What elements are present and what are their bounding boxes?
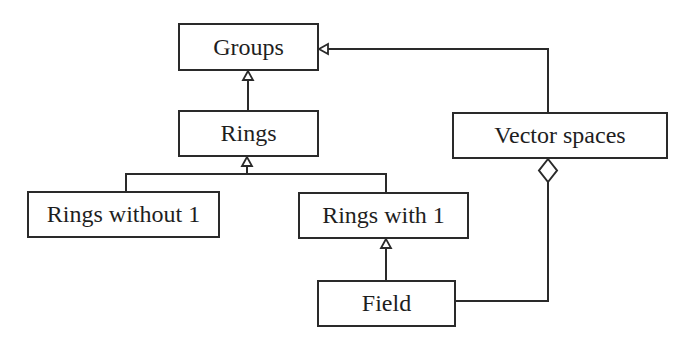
edge-vector-spaces-to-groups bbox=[328, 49, 548, 113]
node-label: Groups bbox=[213, 34, 284, 60]
node-label: Rings without 1 bbox=[47, 201, 200, 227]
inheritance-arrow-icon bbox=[319, 44, 328, 54]
node-label: Vector spaces bbox=[494, 122, 625, 148]
aggregation-diamond-icon bbox=[539, 159, 557, 182]
inheritance-arrow-icon bbox=[243, 71, 253, 80]
node-rings: Rings bbox=[179, 111, 318, 156]
node-label: Rings with 1 bbox=[322, 202, 445, 228]
edge-ring-subclasses-bus bbox=[126, 174, 386, 193]
node-groups: Groups bbox=[179, 24, 318, 70]
class-diagram: Groups Rings Rings without 1 Rings with … bbox=[0, 0, 693, 345]
node-rings-with-1: Rings with 1 bbox=[299, 193, 468, 238]
node-vector-spaces: Vector spaces bbox=[453, 113, 667, 158]
node-rings-without-1: Rings without 1 bbox=[28, 192, 219, 237]
node-label: Field bbox=[362, 290, 411, 316]
node-field: Field bbox=[318, 281, 455, 326]
inheritance-arrow-icon bbox=[242, 157, 252, 166]
node-label: Rings bbox=[220, 120, 276, 146]
inheritance-arrow-icon bbox=[381, 239, 391, 248]
